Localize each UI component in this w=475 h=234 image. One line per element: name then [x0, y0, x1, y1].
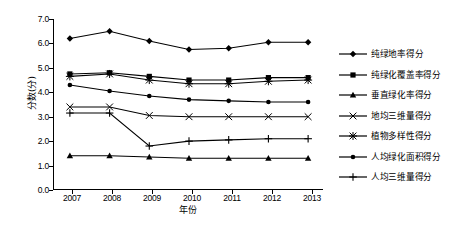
legend-label: 人均绿化面积得分 [368, 152, 441, 162]
series-6 [66, 109, 312, 150]
x-axis-tick-label: 2011 [212, 194, 252, 203]
data-point-circle [351, 154, 356, 159]
data-point-diamond [146, 38, 152, 44]
y-axis-tick-label: 5.0 [9, 64, 49, 73]
y-axis-tick-label: 0.0 [9, 186, 49, 195]
data-point-asterisk [145, 76, 153, 84]
legend-marker-diamond-icon [338, 44, 368, 64]
legend-label: 纯绿地率得分 [368, 49, 423, 59]
y-axis-tick-label: 6.0 [9, 39, 49, 48]
legend-marker-circle-icon [338, 147, 368, 167]
x-axis-tick-label: 2008 [92, 194, 132, 203]
y-axis-tick-label: 7.0 [9, 15, 49, 24]
data-point-asterisk [225, 80, 233, 88]
x-axis-tick-label: 2012 [252, 194, 292, 203]
data-point-circle [68, 83, 73, 88]
legend-item[interactable]: 人均绿化面积得分 [338, 147, 475, 168]
data-point-diamond [186, 46, 192, 52]
data-point-diamond [265, 39, 271, 45]
data-point-plus [265, 135, 273, 143]
legend: 纯绿地率得分 纯绿化覆盖率得分 垂直绿化率得分 地均三维量得分 植物多样性得分 … [338, 44, 475, 188]
data-point-plus [304, 135, 312, 143]
data-point-diamond [67, 35, 73, 41]
data-point-circle [226, 99, 231, 104]
data-point-plus [225, 136, 233, 144]
data-point-asterisk [66, 72, 74, 80]
legend-item[interactable]: 垂直绿化率得分 [338, 85, 475, 106]
plot-area [53, 19, 323, 190]
data-point-diamond [226, 45, 232, 51]
data-point-circle [306, 100, 311, 105]
data-point-asterisk [349, 132, 357, 140]
legend-item[interactable]: 植物多样性得分 [338, 126, 475, 147]
y-axis-tick-mark [49, 190, 53, 191]
data-point-diamond [305, 39, 311, 45]
legend-marker-asterisk-icon [338, 126, 368, 146]
legend-marker-triangle-icon [338, 85, 368, 105]
legend-label: 植物多样性得分 [368, 131, 432, 141]
legend-item[interactable]: 纯绿地率得分 [338, 44, 475, 65]
data-point-asterisk [264, 77, 272, 85]
data-point-asterisk [185, 80, 193, 88]
legend-item[interactable]: 地均三维量得分 [338, 106, 475, 127]
series-0 [67, 28, 312, 53]
legend-label: 垂直绿化率得分 [368, 90, 432, 100]
legend-item[interactable]: 纯绿化覆盖率得分 [338, 65, 475, 86]
data-point-asterisk [106, 70, 114, 78]
series-3 [66, 104, 311, 121]
data-point-circle [147, 94, 152, 99]
data-point-asterisk [304, 76, 312, 84]
x-axis-tick-label: 2007 [52, 194, 92, 203]
legend-marker-plus-icon [338, 167, 368, 187]
x-axis-title: 年份 [148, 205, 228, 215]
legend-marker-x-icon [338, 106, 368, 126]
legend-item[interactable]: 人均三维量得分 [338, 167, 475, 188]
x-axis-tick-label: 2013 [292, 194, 332, 203]
legend-marker-square-icon [338, 65, 368, 85]
chart-container: 分数(分) 7.0 6.0 5.0 4.0 3.0 2.0 1.0 0.0 20… [0, 0, 475, 234]
data-point-plus [349, 173, 357, 181]
y-axis-tick-label: 2.0 [9, 137, 49, 146]
data-point-circle [107, 89, 112, 94]
data-point-square [350, 72, 355, 77]
series-2 [67, 153, 312, 161]
legend-label: 人均三维量得分 [368, 172, 432, 182]
legend-label: 纯绿化覆盖率得分 [368, 70, 441, 80]
y-axis-tick-label: 1.0 [9, 162, 49, 171]
data-point-circle [187, 97, 192, 102]
data-point-diamond [350, 51, 356, 57]
series-layer [54, 19, 324, 190]
data-point-diamond [106, 28, 112, 34]
x-axis-tick-label: 2010 [172, 194, 212, 203]
data-point-circle [266, 100, 271, 105]
legend-label: 地均三维量得分 [368, 111, 432, 121]
y-axis-tick-label: 4.0 [9, 88, 49, 97]
data-point-plus [66, 109, 74, 117]
y-axis-tick-label: 3.0 [9, 113, 49, 122]
data-point-plus [185, 137, 193, 145]
x-axis-tick-label: 2009 [132, 194, 172, 203]
